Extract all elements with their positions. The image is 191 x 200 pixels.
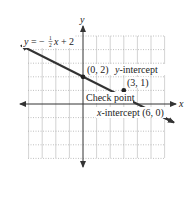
y-intercept-desc: y-intercept <box>114 64 158 75</box>
equation-fraction-den: 2 <box>49 42 52 48</box>
equation-suffix: x + 2 <box>53 36 74 47</box>
check-point-label: Check point <box>86 92 135 103</box>
graph-canvas: y x y = − 1 2 x + 2 (0, 2) y-intercept (… <box>0 0 191 200</box>
y-intercept-coord: (0, 2) <box>87 64 109 76</box>
equation-fraction-num: 1 <box>49 35 52 41</box>
x-intercept-label: x-intercept (6, 0) <box>96 107 164 119</box>
x-axis-label: x <box>178 98 184 109</box>
check-point-coord: (3, 1) <box>127 77 149 89</box>
y-axis-label: y <box>79 14 85 25</box>
y-intercept-point <box>81 74 86 79</box>
equation-label: y = − <box>23 36 45 47</box>
